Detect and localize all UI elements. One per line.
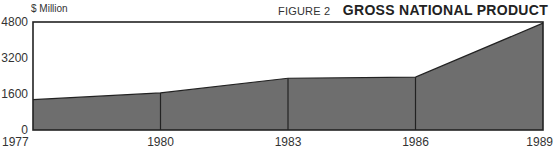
x-tick-label: 1989 [526,135,553,149]
x-tick-label: 1986 [402,135,429,149]
x-tick-label: 1980 [147,135,174,149]
area-chart: 0160032004800 19771980198319861989 [0,0,556,155]
plot-area [33,22,543,130]
y-tick-label: 3200 [1,51,28,65]
x-axis-ticks: 19771980198319861989 [2,135,553,149]
x-tick-label: 1983 [275,135,302,149]
y-tick-label: 1600 [1,87,28,101]
y-axis-ticks: 0160032004800 [1,15,28,137]
x-tick-label: 1977 [2,135,29,149]
y-tick-label: 4800 [1,15,28,29]
